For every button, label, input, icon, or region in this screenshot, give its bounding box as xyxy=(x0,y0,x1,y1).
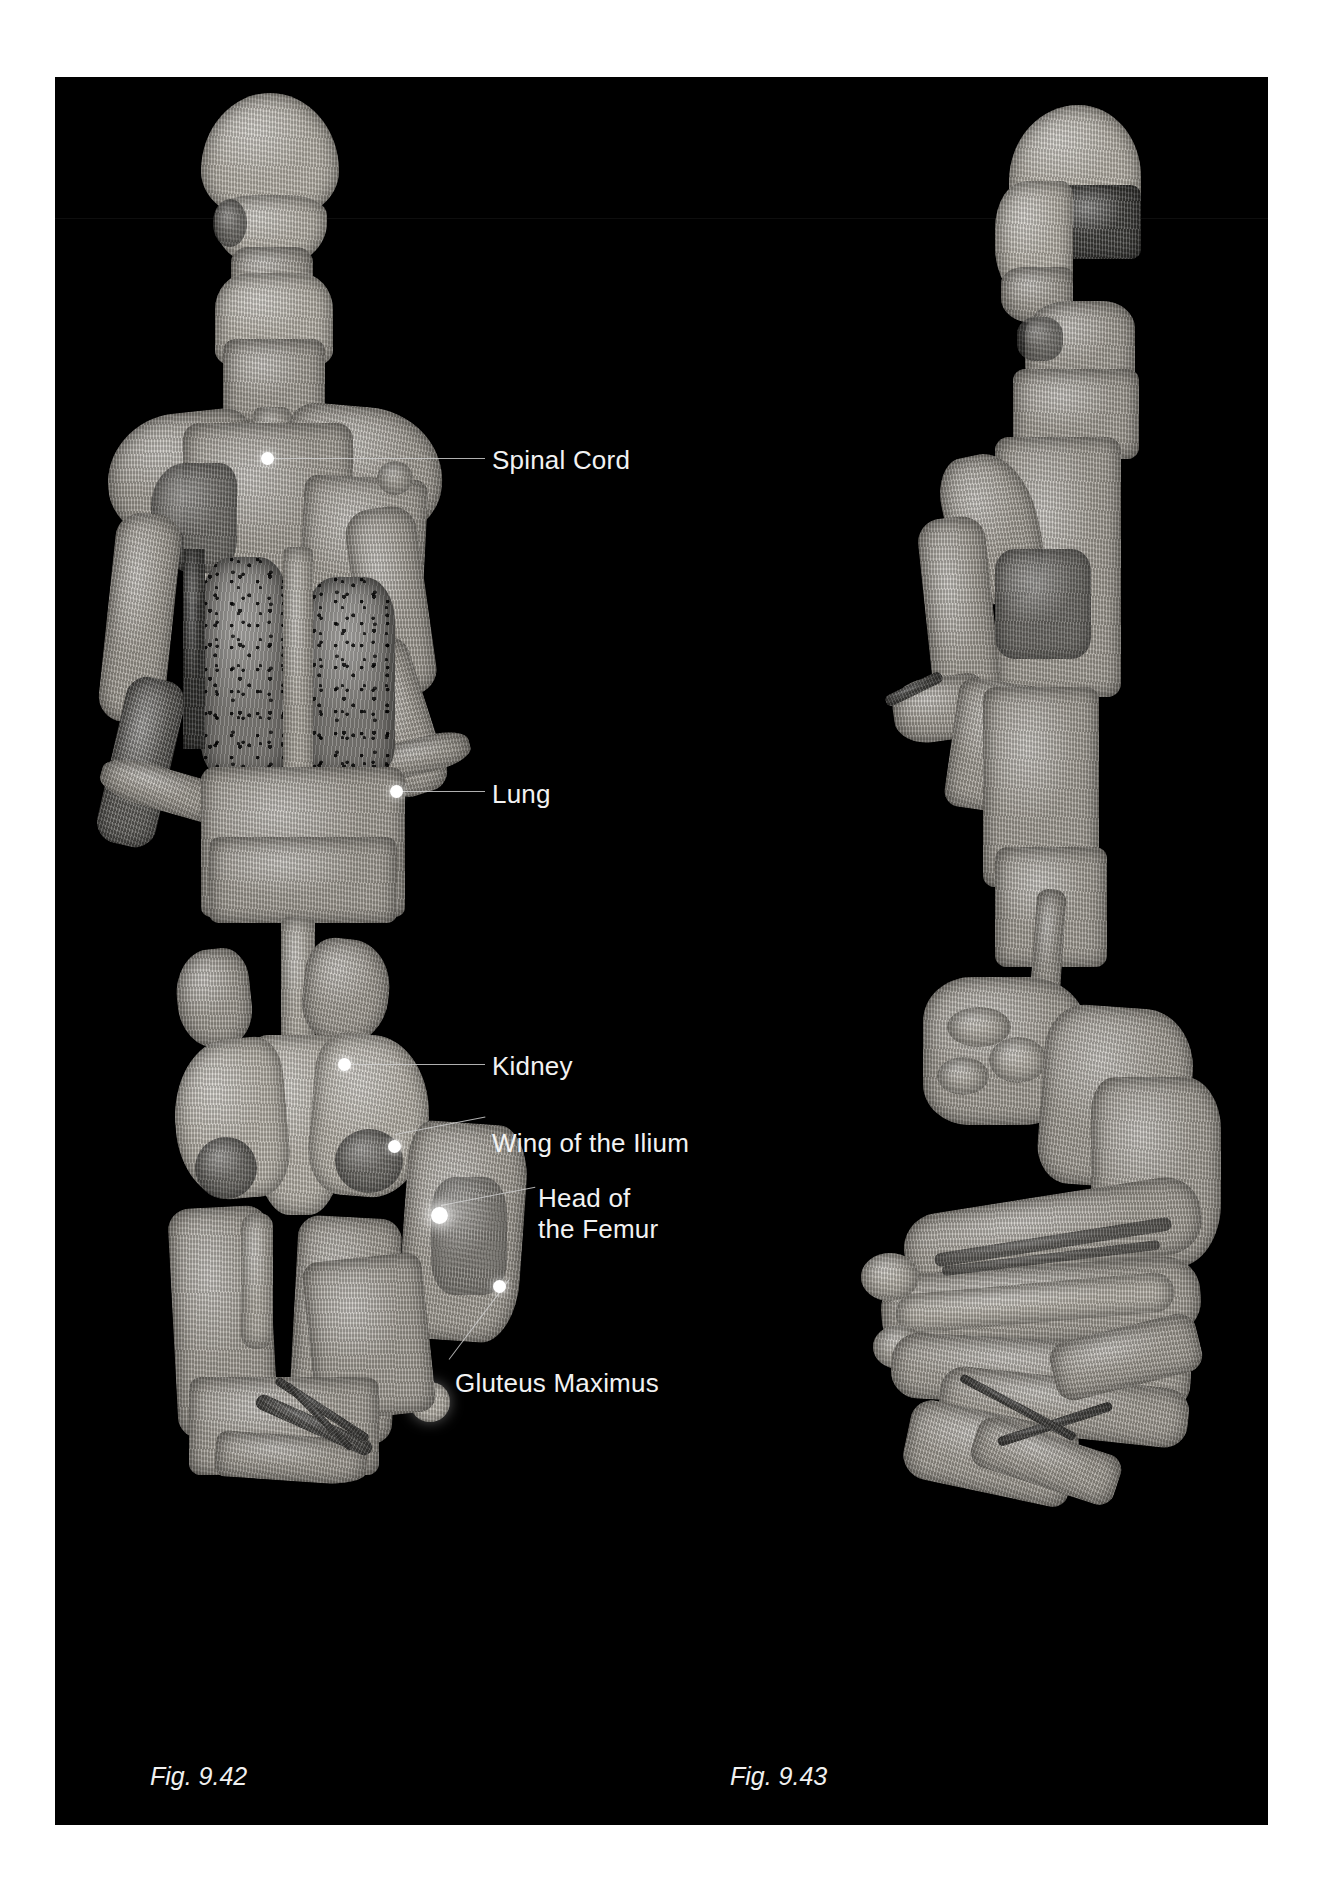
lung-left-posterior xyxy=(201,557,289,777)
specimen-lateral-view xyxy=(695,77,1268,1777)
kidney-left xyxy=(172,945,256,1050)
marker-kidney xyxy=(338,1058,351,1071)
caption-fig-9-42: Fig. 9.42 xyxy=(150,1762,247,1791)
label-gluteus-maximus: Gluteus Maximus xyxy=(455,1368,659,1399)
marker-head-of-the-femur xyxy=(431,1207,448,1224)
femoral-condyle-lateral xyxy=(861,1253,919,1301)
label-kidney: Kidney xyxy=(492,1051,573,1082)
thoracic-spine xyxy=(283,547,313,787)
larynx-shadow xyxy=(1017,317,1063,361)
femur-shaft-left xyxy=(241,1213,273,1349)
label-wing-of-the-ilium: Wing of the Ilium xyxy=(492,1128,689,1159)
label-spinal-cord: Spinal Cord xyxy=(492,445,630,476)
leader-kidney xyxy=(343,1064,485,1065)
label-lung: Lung xyxy=(492,779,551,810)
greater-sciatic-left xyxy=(195,1137,257,1199)
thoracic-void-lateral xyxy=(995,549,1091,659)
lung-right-posterior xyxy=(305,577,395,777)
marker-spinal-cord xyxy=(261,452,274,465)
temporal-shadow-left xyxy=(213,199,247,247)
specimen-posterior-view xyxy=(55,77,615,1777)
marker-lung xyxy=(390,785,403,798)
marker-wing-of-the-ilium xyxy=(388,1140,401,1153)
greater-sciatic-right xyxy=(335,1129,403,1193)
humeral-head-right xyxy=(377,461,413,495)
figure-plate: Spinal Cord Lung Kidney Wing of the Iliu… xyxy=(55,77,1268,1825)
leader-spinal-cord xyxy=(267,458,485,459)
bowel-loop-c xyxy=(937,1057,989,1095)
bowel-loop-b xyxy=(989,1037,1047,1083)
leader-lung xyxy=(397,791,485,792)
thoracic-gap-left xyxy=(183,549,205,749)
marker-gluteus-maximus xyxy=(493,1280,506,1293)
lumbar-fascia xyxy=(209,837,397,923)
caption-fig-9-43: Fig. 9.43 xyxy=(730,1762,827,1791)
atlas-page: Spinal Cord Lung Kidney Wing of the Iliu… xyxy=(0,0,1335,1898)
label-head-of-the-femur-line2: the Femur xyxy=(538,1214,658,1245)
kidney-right xyxy=(298,935,394,1047)
label-head-of-the-femur-line1: Head of xyxy=(538,1183,630,1214)
